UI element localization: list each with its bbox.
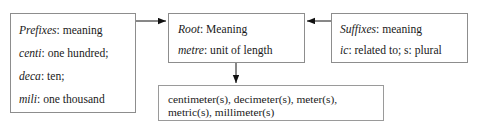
derived-words-box: centimeter(s), decimeter(s), meter(s), m… [158, 85, 384, 121]
suffixes-line-0: Suffixes: meaning [340, 24, 422, 36]
root-gloss-0: Meaning [206, 23, 247, 36]
prefixes-term-1: centi [19, 47, 42, 60]
root-term-0: Root [178, 23, 200, 36]
root-gloss-1: unit of length [210, 44, 272, 57]
prefixes-gloss-0: meaning [63, 24, 103, 37]
prefixes-term-2: deca [19, 70, 41, 83]
suffixes-gloss-1: related to; s: plural [355, 44, 442, 57]
prefixes-box: Prefixes: meaning centi: one hundred; de… [10, 13, 136, 113]
root-line-1: metre: unit of length [178, 45, 273, 57]
prefixes-gloss-1: one hundred; [48, 47, 109, 60]
derived-line-0: centimeter(s), decimeter(s), meter(s), [168, 94, 337, 105]
suffixes-box: Suffixes: meaning ic: related to; s: plu… [331, 13, 468, 63]
root-line-0: Root: Meaning [178, 24, 247, 36]
suffixes-gloss-0: meaning [382, 23, 422, 36]
prefixes-term-0: Prefixes [19, 24, 57, 37]
prefixes-gloss-2: ten; [47, 70, 64, 83]
derived-line-1: metric(s), millimeter(s) [168, 107, 274, 118]
prefixes-term-3: mili [19, 93, 37, 106]
prefixes-gloss-3: one thousand [43, 93, 105, 106]
root-term-1: metre [178, 44, 204, 57]
root-box: Root: Meaning metre: unit of length [168, 13, 305, 63]
prefixes-line-3: mili: one thousand [19, 94, 105, 106]
prefixes-line-0: Prefixes: meaning [19, 25, 103, 37]
suffixes-line-1: ic: related to; s: plural [340, 45, 442, 57]
prefixes-line-1: centi: one hundred; [19, 48, 109, 60]
word-building-diagram: Prefixes: meaning centi: one hundred; de… [0, 0, 477, 126]
suffixes-term-0: Suffixes [340, 23, 376, 36]
prefixes-line-2: deca: ten; [19, 71, 64, 83]
